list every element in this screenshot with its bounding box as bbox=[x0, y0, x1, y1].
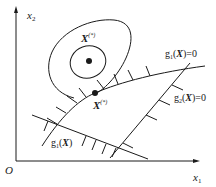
constraint-g1-label: g1(X)=0 bbox=[165, 48, 197, 60]
x-axis-arrow-icon bbox=[193, 159, 200, 163]
optimization-constraint-diagram: x2 O x1 X(*) X(*) g1(X bbox=[0, 0, 216, 187]
constraint-g3-label: g1(X) bbox=[51, 137, 72, 149]
unconstrained-optimum-label: X(*) bbox=[80, 32, 95, 44]
constraint-g1-boundary bbox=[42, 66, 205, 146]
constraint-g2-boundary bbox=[110, 63, 190, 158]
unconstrained-optimum-point bbox=[86, 58, 92, 64]
constraint-g2-label: g2(X)=0 bbox=[174, 92, 206, 104]
origin-label: O bbox=[5, 164, 13, 176]
constraint-g3-boundary bbox=[32, 115, 148, 159]
y-axis-label: x2 bbox=[26, 9, 36, 23]
x-axis-label: x1 bbox=[192, 171, 202, 185]
constrained-optimum-label: X(*) bbox=[92, 99, 107, 111]
y-axis-arrow-icon bbox=[14, 6, 18, 13]
constrained-optimum-point bbox=[92, 90, 98, 96]
